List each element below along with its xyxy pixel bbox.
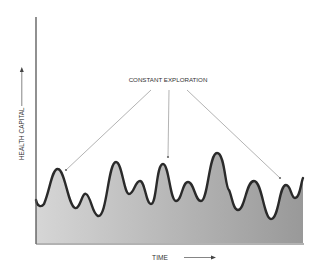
x-axis-label: TIME — [152, 254, 168, 261]
x-axis-arrowhead-icon — [211, 256, 216, 260]
annotation-arrows — [65, 90, 281, 179]
health-capital-diagram: CONSTANT EXPLORATION HEALTH CAPITAL TIME — [0, 0, 320, 273]
y-axis-label: HEALTH CAPITAL — [18, 107, 25, 160]
y-axis-arrowhead-icon — [20, 67, 24, 72]
annotation-label: CONSTANT EXPLORATION — [129, 76, 208, 83]
y-axis-label-group: HEALTH CAPITAL — [18, 67, 25, 160]
